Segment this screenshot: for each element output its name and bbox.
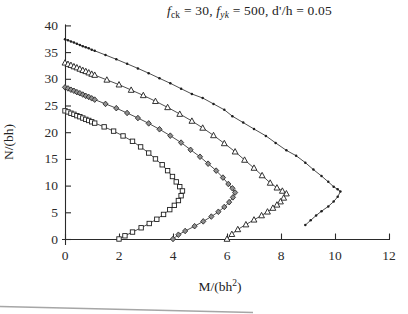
dot-marker <box>191 93 194 96</box>
dot-marker <box>312 168 315 171</box>
series-line <box>65 63 286 239</box>
series-curve-4 <box>64 38 342 226</box>
y-tick-label: 10 <box>45 178 59 193</box>
dot-marker <box>137 67 140 70</box>
triangle-marker <box>274 185 280 190</box>
label-segment: yk <box>220 10 229 20</box>
series-curve-2 <box>62 85 237 242</box>
label-segment: M/(bh <box>199 279 233 294</box>
dot-marker <box>169 82 172 85</box>
triangle-marker <box>177 111 183 116</box>
diamond-marker <box>183 228 188 234</box>
x-tick-label: 12 <box>382 248 396 263</box>
triangle-marker <box>200 125 206 130</box>
y-axis-label: N/(bh) <box>1 103 17 181</box>
dot-marker <box>212 103 215 106</box>
dot-marker <box>90 48 93 51</box>
square-marker <box>155 217 159 221</box>
dot-marker <box>201 97 204 100</box>
dot-marker <box>147 72 150 75</box>
y-tick-label: 20 <box>45 125 59 140</box>
square-marker <box>93 121 97 125</box>
dot-marker <box>70 40 73 43</box>
series-line <box>65 111 182 239</box>
interaction-diagram-figure: fck = 30, fyk = 500, d'/h = 0.05 N/(bh) … <box>0 0 408 314</box>
square-marker <box>178 184 182 188</box>
dot-marker <box>126 63 129 66</box>
diamond-marker <box>168 133 173 139</box>
y-tick-label: 40 <box>45 18 59 33</box>
dot-marker <box>115 58 118 61</box>
triangle-marker <box>243 221 249 226</box>
dot-marker <box>253 128 256 131</box>
triangle-marker <box>128 87 134 92</box>
dot-marker <box>76 43 79 46</box>
square-marker <box>176 198 180 202</box>
square-marker <box>160 163 164 167</box>
dot-marker <box>85 46 88 49</box>
dot-marker <box>304 224 307 227</box>
dot-marker <box>73 41 76 44</box>
triangle-marker <box>235 226 241 231</box>
triangle-marker <box>153 98 159 103</box>
square-marker <box>123 234 127 238</box>
label-segment: ck <box>171 10 180 20</box>
series-curve-1 <box>63 109 185 242</box>
x-tick-label: 10 <box>328 248 342 263</box>
dot-marker <box>180 87 183 90</box>
square-marker <box>153 157 157 161</box>
diamond-marker <box>114 105 119 111</box>
diamond-marker <box>179 140 184 146</box>
dot-marker <box>242 121 245 124</box>
y-tick-label: 15 <box>45 151 59 166</box>
dot-marker <box>336 188 339 191</box>
y-tick-label: 35 <box>45 45 59 60</box>
square-marker <box>147 221 151 225</box>
square-marker <box>165 168 169 172</box>
square-marker <box>117 237 121 241</box>
triangle-marker <box>229 231 235 236</box>
square-marker <box>147 151 151 155</box>
dot-marker <box>327 205 330 208</box>
square-marker <box>161 212 165 216</box>
dot-marker <box>339 190 342 193</box>
chart-canvas: 0246810120510152025303540 <box>0 0 408 314</box>
square-marker <box>130 230 134 234</box>
square-marker <box>121 134 125 138</box>
diamond-marker <box>201 219 206 225</box>
dot-marker <box>88 47 91 50</box>
dot-marker <box>285 149 288 152</box>
triangle-marker <box>165 104 171 109</box>
dot-marker <box>104 54 107 57</box>
triangle-marker <box>251 217 257 222</box>
square-marker <box>170 174 174 178</box>
y-tick-label: 5 <box>51 205 58 220</box>
dot-marker <box>158 77 161 80</box>
square-marker <box>130 139 134 143</box>
square-marker <box>139 226 143 230</box>
x-axis-label: M/(bh2) <box>140 278 300 295</box>
diamond-marker <box>192 223 197 229</box>
square-marker <box>172 203 176 207</box>
square-marker <box>111 129 115 133</box>
dot-marker <box>67 39 70 42</box>
triangle-marker <box>211 132 217 137</box>
x-tick-label: 0 <box>62 248 69 263</box>
dot-marker <box>336 196 339 199</box>
dot-marker <box>93 50 96 53</box>
series-curve-3 <box>62 60 289 242</box>
x-tick-label: 2 <box>116 248 123 263</box>
square-marker <box>102 125 106 129</box>
y-tick-label: 0 <box>51 232 58 247</box>
diamond-marker <box>146 121 151 127</box>
dot-marker <box>320 175 323 178</box>
square-marker <box>168 207 172 211</box>
triangle-marker <box>189 118 195 123</box>
dot-marker <box>79 44 82 47</box>
dot-marker <box>82 45 85 48</box>
label-segment: ) <box>237 279 242 294</box>
chart-title: fck = 30, fyk = 500, d'/h = 0.05 <box>167 3 332 20</box>
square-marker <box>179 194 183 198</box>
x-tick-label: 8 <box>278 248 285 263</box>
dot-marker <box>320 210 323 213</box>
